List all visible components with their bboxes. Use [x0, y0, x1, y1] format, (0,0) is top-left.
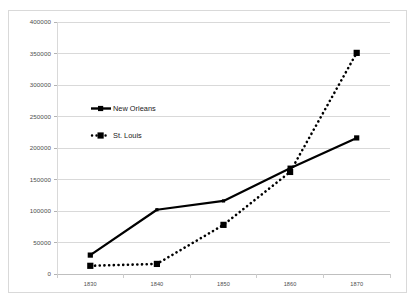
data-point-marker	[354, 135, 359, 140]
data-point-marker	[87, 263, 93, 269]
y-tick-label: 100000	[9, 207, 51, 214]
chart-axes	[54, 22, 390, 278]
gridlines	[57, 22, 390, 274]
legend-marker-new-orleans	[98, 106, 103, 111]
data-point-marker	[88, 253, 93, 258]
data-point-marker	[155, 208, 158, 211]
x-tick-label: 1860	[270, 281, 310, 287]
y-tick-label: 350000	[9, 50, 51, 57]
y-tick-label: 0	[9, 270, 51, 277]
data-point-marker	[287, 169, 293, 175]
y-tick-label: 150000	[9, 176, 51, 183]
data-series	[87, 50, 360, 269]
x-tick-label: 1870	[337, 281, 377, 287]
data-point-marker	[354, 50, 360, 56]
data-point-marker	[220, 222, 226, 228]
legend-markers	[91, 106, 111, 139]
y-tick-label: 50000	[9, 239, 51, 246]
y-tick-label: 400000	[9, 18, 51, 25]
y-tick-label: 200000	[9, 144, 51, 151]
y-tick-label: 250000	[9, 113, 51, 120]
data-point-marker	[222, 199, 225, 202]
chart-container: 0500001000001500002000002500003000003500…	[8, 10, 407, 293]
chart-plot-area	[9, 11, 406, 292]
x-tick-label: 1830	[70, 281, 110, 287]
data-point-marker	[154, 261, 160, 267]
legend-label-new-orleans: New Orleans	[113, 104, 156, 113]
y-tick-label: 300000	[9, 81, 51, 88]
x-tick-label: 1850	[204, 281, 244, 287]
legend-label-st-louis: St. Louis	[113, 131, 142, 140]
legend-marker-st-louis	[98, 132, 104, 138]
series-line-1	[90, 138, 356, 255]
x-tick-label: 1840	[137, 281, 177, 287]
